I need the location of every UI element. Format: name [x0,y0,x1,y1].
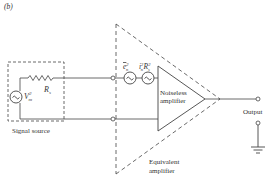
signal-voltage-source-icon [10,91,22,103]
equivalent-amplifier-label-1: Equivalent [149,158,179,166]
ground-terminal [256,121,260,125]
output-terminal [256,97,260,101]
ground-icon [251,125,265,153]
resistor-label: Rs [43,85,51,95]
output-label: Output [243,108,263,116]
equivalent-amplifier-label-2: amplifier [149,167,175,175]
input-terminal-bottom [111,117,115,121]
resistor-rs [20,76,111,92]
current-noise-source-icon [142,72,154,84]
noiseless-amplifier-label-1: Noiseless [160,89,187,97]
noiseless-amplifier-label-2: amplifier [160,97,186,105]
current-noise-label: i2nR2s [139,62,151,72]
voltage-noise-source-icon [124,72,136,84]
voltage-noise-label: e2n [123,62,129,72]
input-terminal-top [111,76,115,80]
circuit-diagram: (b) Rs V2m Signal source e2n i2nR2s [0,0,278,183]
panel-label: (b) [4,2,13,11]
signal-source-box [8,62,64,121]
voltage-label: V2m [24,91,32,102]
signal-source-label: Signal source [12,127,50,135]
